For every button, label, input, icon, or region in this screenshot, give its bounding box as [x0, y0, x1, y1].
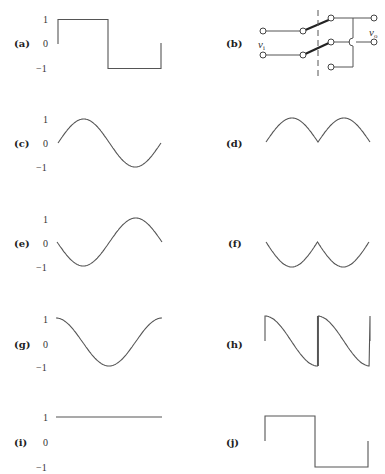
panel-g: (g) 1 0 −1 — [14, 314, 162, 373]
tick-neg1: −1 — [36, 63, 47, 74]
waveform-figure: (a) 1 0 −1 (b) vi vo ( — [0, 0, 385, 474]
square-wave-curve — [265, 416, 368, 467]
negative-rectified-sine-curve — [266, 242, 369, 267]
panel-f: (f) — [228, 238, 369, 267]
tick-1: 1 — [43, 412, 48, 423]
input-voltage-label: vi — [258, 38, 265, 52]
tick-neg1: −1 — [36, 362, 47, 373]
output-terminal-top — [371, 15, 377, 21]
negative-sine-curve — [57, 218, 162, 266]
input-terminal-top — [260, 28, 266, 34]
switch-blade-top — [303, 19, 331, 31]
input-terminal-bottom — [260, 52, 266, 58]
panel-label-b: (b) — [226, 38, 242, 49]
tick-1: 1 — [43, 314, 48, 325]
panel-label-e: (e) — [14, 238, 30, 249]
panel-label-f: (f) — [228, 238, 242, 249]
panel-c: (c) 1 0 −1 — [14, 114, 161, 173]
panel-label-g: (g) — [14, 339, 30, 350]
tick-0: 0 — [43, 339, 48, 350]
panel-e: (e) 1 0 −1 — [14, 214, 162, 273]
panel-label-j: (j) — [226, 437, 239, 448]
tick-neg1: −1 — [36, 162, 47, 173]
tick-1: 1 — [43, 14, 48, 25]
tick-0: 0 — [43, 138, 48, 149]
panel-j: (j) — [226, 416, 368, 467]
tick-neg1: −1 — [36, 462, 47, 473]
switch-contact-2 — [328, 39, 334, 45]
panel-label-a: (a) — [14, 38, 30, 49]
tick-1: 1 — [43, 114, 48, 125]
switch-contact-3 — [328, 64, 334, 70]
panel-i: (i) 1 0 −1 — [14, 412, 162, 473]
switch-blade-bottom — [303, 42, 331, 55]
rectified-sine-curve — [266, 118, 370, 142]
cosine-curve — [56, 318, 162, 366]
panel-h: (h) — [226, 316, 370, 366]
tick-neg1: −1 — [36, 262, 47, 273]
panel-label-d: (d) — [226, 138, 242, 149]
panel-d: (d) — [226, 118, 370, 149]
tick-0: 0 — [43, 437, 48, 448]
switch-contact-1 — [328, 15, 334, 21]
switch-pivot-top — [300, 28, 306, 34]
output-voltage-label: vo — [369, 26, 378, 40]
square-wave-curve — [58, 20, 161, 69]
panel-label-h: (h) — [226, 339, 243, 350]
panel-label-i: (i) — [14, 437, 27, 448]
output-terminal-bottom — [371, 39, 377, 45]
panel-label-c: (c) — [14, 138, 30, 149]
tick-1: 1 — [43, 214, 48, 225]
switched-cosine-curve — [265, 316, 370, 366]
switch-pivot-bottom — [300, 52, 306, 58]
tick-0: 0 — [43, 238, 48, 249]
panel-b: (b) vi vo — [226, 10, 378, 80]
tick-0: 0 — [43, 38, 48, 49]
panel-a: (a) 1 0 −1 — [14, 14, 161, 74]
sine-curve — [58, 119, 161, 167]
